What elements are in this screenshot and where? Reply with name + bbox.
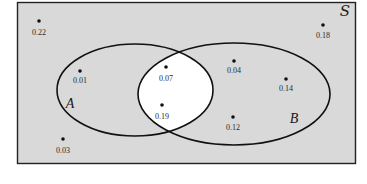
point-value: 0.14 (279, 84, 293, 93)
point-value: 0.19 (155, 112, 169, 121)
point-dot (321, 23, 325, 27)
point-dot (284, 77, 288, 81)
point-value: 0.22 (32, 28, 46, 37)
point-value: 0.04 (227, 66, 241, 75)
set-b-label: B (290, 111, 299, 126)
point-dot (61, 137, 65, 141)
set-a-label: A (65, 96, 75, 111)
point-dot (232, 59, 236, 63)
venn-diagram: S A B 0.22 0.01 0.07 0.19 0.04 0.14 0.12… (0, 0, 367, 184)
point-dot (37, 19, 41, 23)
point-value: 0.12 (226, 123, 240, 132)
point-dot (78, 69, 82, 73)
point-value: 0.01 (73, 76, 87, 85)
point-value: 0.18 (316, 31, 330, 40)
sample-space-label: S (340, 2, 350, 20)
point-dot (160, 103, 164, 107)
point-value: 0.07 (159, 74, 173, 83)
point-value: 0.03 (56, 146, 70, 155)
point-dot (231, 115, 235, 119)
point-dot (164, 65, 168, 69)
